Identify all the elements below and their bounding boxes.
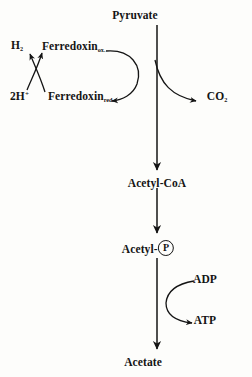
arrow-ferredoxin-red-to-hydrogen	[30, 54, 45, 92]
node-acetyl-coa: Acetyl-CoA	[128, 178, 186, 190]
phosphate-letter: P	[159, 242, 173, 254]
hydrogen-subscript: 2	[20, 45, 23, 52]
node-adp: ADP	[193, 274, 217, 286]
node-hydrogen: H2	[11, 40, 23, 52]
node-carbon-dioxide: CO2	[207, 91, 228, 103]
phosphate-circle-icon: P	[158, 240, 174, 256]
node-ferredoxin-reduced: Ferredoxinred.	[48, 91, 114, 103]
ferredoxin-ox-subscript: ox.	[98, 46, 106, 53]
arrow-atp-output	[166, 303, 192, 323]
arrow-co2-release	[155, 60, 196, 101]
hydrogen-symbol: H	[11, 39, 20, 51]
ferredoxin-red-name: Ferredoxin	[48, 90, 104, 102]
protons-symbol: 2H	[10, 90, 25, 102]
protons-charge: +	[25, 90, 29, 98]
node-ferredoxin-oxidized: Ferredoxinox.	[42, 41, 105, 53]
node-pyruvate: Pyruvate	[112, 10, 158, 22]
co2-symbol: CO	[207, 90, 224, 102]
pathway-diagram: Pyruvate H2 Ferredoxinox. 2H+ Ferredoxin…	[0, 0, 252, 377]
ferredoxin-ox-name: Ferredoxin	[42, 40, 98, 52]
co2-subscript: 2	[224, 96, 227, 103]
arrow-protons-to-ferredoxin-ox	[27, 53, 42, 90]
node-acetate: Acetate	[124, 357, 162, 369]
node-atp: ATP	[194, 315, 216, 327]
ferredoxin-red-subscript: red.	[104, 96, 114, 103]
arrow-adp-input	[166, 281, 194, 303]
node-protons: 2H+	[10, 91, 29, 103]
node-acetyl-phosphate: Acetyl-P	[122, 240, 174, 256]
acetyl-prefix: Acetyl-	[122, 243, 158, 255]
